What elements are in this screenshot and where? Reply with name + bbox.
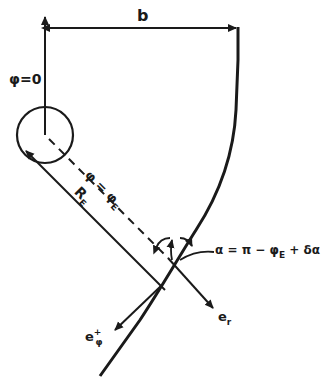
- label-e-phi: e+φ: [85, 330, 102, 343]
- label-e-phi-sub: φ: [95, 337, 102, 347]
- diagram-svg: [0, 0, 322, 382]
- label-angle-main: α = π − φ: [215, 243, 279, 257]
- label-angle-equation: α = π − φE + δα: [215, 244, 320, 256]
- label-angle-tail: + δα: [285, 243, 320, 257]
- label-b: b: [137, 8, 148, 24]
- label-angle-sub: E: [279, 250, 285, 260]
- label-phi-zero: φ=0: [9, 72, 41, 86]
- label-e-phi-main: e: [85, 329, 94, 344]
- angle-leader-line: [180, 252, 214, 260]
- label-e-r: er: [218, 310, 231, 323]
- unit-vector-e-r: [168, 258, 213, 308]
- label-e-r-main: e: [218, 309, 227, 324]
- diagram-canvas: b φ=0 φ = φE RE α = π − φE + δα er e+φ: [0, 0, 322, 382]
- label-e-phi-sup: +: [94, 327, 102, 337]
- label-e-r-sub: r: [227, 317, 231, 327]
- angle-arc-alpha-left: [156, 238, 170, 248]
- angle-pointer: [171, 240, 172, 260]
